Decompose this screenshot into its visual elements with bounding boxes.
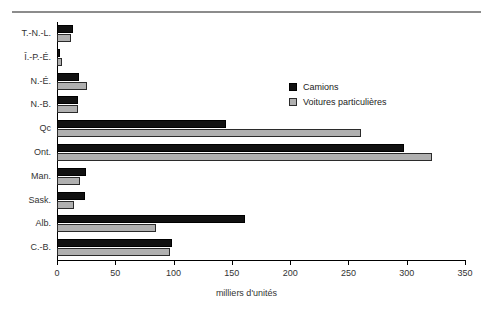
bar-voitures-particulieres bbox=[57, 224, 156, 232]
x-axis-title: milliers d'unités bbox=[0, 288, 493, 298]
bar-row: Ont. bbox=[57, 141, 465, 165]
category-label: Alb. bbox=[0, 212, 51, 236]
category-label: Sask. bbox=[0, 189, 51, 213]
category-label: Ont. bbox=[0, 141, 51, 165]
bar-camions bbox=[57, 73, 79, 81]
x-tick-label: 250 bbox=[328, 268, 368, 278]
category-label: Man. bbox=[0, 165, 51, 189]
bar-voitures-particulieres bbox=[57, 82, 87, 90]
bar-camions bbox=[57, 49, 60, 57]
x-tick bbox=[174, 260, 175, 265]
category-label: Î.-P.-É. bbox=[0, 46, 51, 70]
bar-voitures-particulieres bbox=[57, 153, 432, 161]
bar-row: N.-É. bbox=[57, 70, 465, 94]
bar-camions bbox=[57, 239, 172, 247]
x-tick-label: 0 bbox=[37, 268, 77, 278]
x-tick bbox=[465, 260, 466, 265]
x-tick-label: 350 bbox=[445, 268, 485, 278]
bar-voitures-particulieres bbox=[57, 248, 170, 256]
bar-row: T.-N.-L. bbox=[57, 22, 465, 46]
bar-row: Sask. bbox=[57, 189, 465, 213]
bar-camions bbox=[57, 215, 245, 223]
legend-item-camions: Camions bbox=[289, 82, 387, 92]
x-tick-label: 50 bbox=[95, 268, 135, 278]
bar-row: Alb. bbox=[57, 212, 465, 236]
x-tick bbox=[348, 260, 349, 265]
x-tick-label: 300 bbox=[387, 268, 427, 278]
x-tick bbox=[290, 260, 291, 265]
bar-camions bbox=[57, 168, 86, 176]
bar-camions bbox=[57, 96, 78, 104]
bar-camions bbox=[57, 25, 73, 33]
bar-voitures-particulieres bbox=[57, 129, 361, 137]
x-tick-label: 200 bbox=[270, 268, 310, 278]
bar-voitures-particulieres bbox=[57, 58, 62, 66]
bar-row: Man. bbox=[57, 165, 465, 189]
x-tick bbox=[232, 260, 233, 265]
x-tick-label: 150 bbox=[212, 268, 252, 278]
bar-row: N.-B. bbox=[57, 93, 465, 117]
bar-voitures-particulieres bbox=[57, 34, 71, 42]
chart-page: 050100150200250300350 T.-N.-L.Î.-P.-É.N.… bbox=[0, 0, 493, 319]
bar-voitures-particulieres bbox=[57, 201, 74, 209]
x-tick bbox=[407, 260, 408, 265]
legend-label-camions: Camions bbox=[303, 82, 339, 92]
category-label: C.-B. bbox=[0, 236, 51, 260]
bar-camions bbox=[57, 120, 226, 128]
category-label: N.-É. bbox=[0, 70, 51, 94]
bar-row: C.-B. bbox=[57, 236, 465, 260]
legend-swatch-voitures-particulieres bbox=[289, 98, 297, 106]
bar-camions bbox=[57, 192, 85, 200]
chart-legend: Camions Voitures particulières bbox=[289, 82, 387, 112]
legend-label-voitures-particulieres: Voitures particulières bbox=[303, 97, 387, 107]
category-label: N.-B. bbox=[0, 93, 51, 117]
plot-area: 050100150200250300350 T.-N.-L.Î.-P.-É.N.… bbox=[57, 22, 465, 260]
bar-camions bbox=[57, 144, 404, 152]
category-label: Qc bbox=[0, 117, 51, 141]
bar-row: Î.-P.-É. bbox=[57, 46, 465, 70]
bar-voitures-particulieres bbox=[57, 177, 80, 185]
bar-voitures-particulieres bbox=[57, 105, 78, 113]
x-tick-label: 100 bbox=[154, 268, 194, 278]
bar-row: Qc bbox=[57, 117, 465, 141]
legend-swatch-camions bbox=[289, 83, 297, 91]
x-tick bbox=[57, 260, 58, 265]
legend-item-voitures-particulieres: Voitures particulières bbox=[289, 97, 387, 107]
top-divider-rule bbox=[12, 11, 481, 13]
x-tick bbox=[115, 260, 116, 265]
x-axis-line bbox=[57, 260, 466, 261]
category-label: T.-N.-L. bbox=[0, 22, 51, 46]
